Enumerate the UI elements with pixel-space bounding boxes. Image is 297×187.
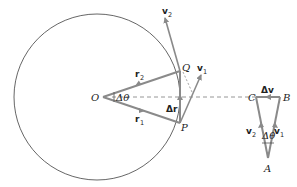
label-v2-sub: 2 [168, 11, 172, 19]
label-B: B [282, 92, 290, 103]
label-delta-r: Δr [166, 104, 178, 114]
label-A: A [263, 163, 271, 174]
label-C: C [248, 92, 256, 103]
label-triangle-v2-sub: 2 [252, 131, 256, 139]
vector-v1 [180, 75, 201, 123]
label-triangle-v1-sub: 1 [280, 131, 284, 139]
label-v1-sub: 1 [203, 68, 207, 76]
label-delta-v: Δv [261, 85, 274, 95]
label-P: P [180, 122, 188, 133]
angle-label-O: Δθ [115, 92, 129, 103]
label-O: O [91, 92, 99, 103]
triangle-v2-arrowhead [258, 122, 264, 128]
label-Q: Q [182, 62, 190, 73]
circular-motion-diagram: O Q P C B A Δθ Δθ r 2 r 1 v 2 v 1 Δr Δv … [0, 0, 297, 187]
auxiliary-dashed-line [183, 72, 192, 92]
triangle-v2 [256, 97, 268, 158]
label-r2-sub: 2 [140, 74, 144, 82]
label-r1-sub: 1 [140, 119, 144, 127]
